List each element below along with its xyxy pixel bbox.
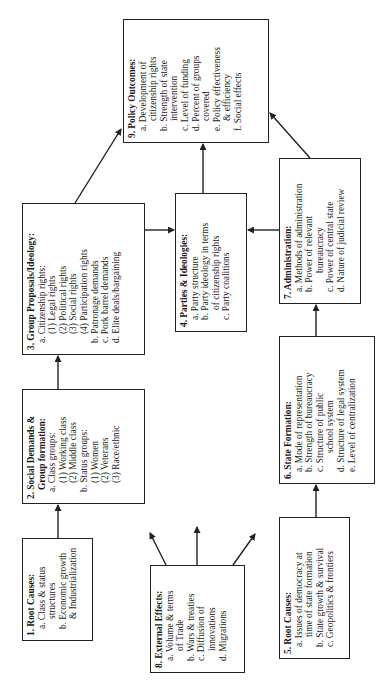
box-item: intervention bbox=[169, 24, 180, 138]
box-item: d. Elite deals/bargaining bbox=[111, 208, 122, 350]
box-item: (2) Veterans bbox=[100, 394, 111, 499]
box-item: (3) Race/ethnic bbox=[111, 394, 122, 499]
box-item: a. Party structure bbox=[190, 198, 201, 327]
box-item: (2) Political rights bbox=[58, 208, 69, 350]
box-title: 2. Social Demands & bbox=[26, 394, 37, 499]
box-item: d. Structure of legal system bbox=[336, 341, 347, 479]
box-item: b. Strength of bureaucracy bbox=[304, 341, 315, 479]
box-title: 3. Group Proposals/Ideology: bbox=[26, 208, 37, 350]
box-item: f. Social effects bbox=[233, 24, 244, 138]
box-item: c. Level of funding bbox=[180, 24, 191, 138]
box-item: covered bbox=[201, 24, 212, 138]
box-title: 6. State Formation: bbox=[283, 341, 294, 479]
box-item: of citizenship rights bbox=[211, 198, 222, 327]
box-item: time of state formation bbox=[304, 522, 315, 654]
box-item: b. Wars & treaties bbox=[186, 570, 197, 668]
box-item: c. Party coalitions bbox=[221, 198, 232, 327]
arrow-7-to-9 bbox=[270, 113, 310, 158]
box-item: & Industrialization bbox=[68, 543, 79, 636]
causal-model-diagram: 1. Root Causes: a. Class & status struct… bbox=[0, 0, 388, 698]
box-item: e. Policy effectiveness bbox=[212, 24, 223, 138]
box-parties-ideologies: 4. Parties & Ideologies: a. Party struct… bbox=[175, 193, 247, 332]
box-item: a. Class & status bbox=[37, 543, 48, 636]
box-item: (1) Legal rights bbox=[47, 208, 58, 350]
box-administration: 7. Administration: a. Methods of adminis… bbox=[279, 158, 361, 304]
box-title: 5. Root Causes: bbox=[283, 522, 294, 654]
box-item: (3) Social rights bbox=[68, 208, 79, 350]
box-item: a. Volume & terms bbox=[165, 570, 176, 668]
arrow-3-to-9 bbox=[75, 129, 121, 203]
box-item: b. Economic growth bbox=[58, 543, 69, 636]
box-external-effects: 8. External Effects: a. Volume & terms o… bbox=[150, 565, 245, 673]
box-item: c. Pork barrel demands bbox=[100, 208, 111, 350]
arrow-8-out-c bbox=[233, 534, 255, 565]
box-item: a. Citizenship rights: bbox=[37, 208, 48, 350]
box-item: c. Diffusion of bbox=[196, 570, 207, 668]
box-item: (2) Middle class bbox=[68, 394, 79, 499]
box-state-formation: 6. State Formation: a. Mode of represent… bbox=[279, 336, 375, 484]
box-title: 1. Root Causes: bbox=[26, 543, 37, 636]
box-item: of Trade bbox=[175, 570, 186, 668]
box-item: (4) Participation rights bbox=[79, 208, 90, 350]
box-item: a. Methods of administration bbox=[294, 163, 305, 299]
box-title-cont: Group formation: bbox=[37, 394, 48, 499]
box-group-proposals: 3. Group Proposals/Ideology: a. Citizens… bbox=[22, 203, 145, 355]
box-item: school system bbox=[325, 341, 336, 479]
box-item: a. Class groups: bbox=[47, 394, 58, 499]
box-item: (1) Working class bbox=[58, 394, 69, 499]
box-item: c. Power of central state bbox=[325, 163, 336, 299]
box-title: 9. Policy Outcomes: bbox=[127, 24, 138, 138]
box-social-demands: 2. Social Demands & Group formation: a. … bbox=[22, 389, 145, 504]
box-item: e. Level of centralization bbox=[347, 341, 358, 479]
box-item: innovations bbox=[207, 570, 218, 668]
box-item: b. Power of relevant bbox=[304, 163, 315, 299]
box-item: d. Percent of groups bbox=[191, 24, 202, 138]
box-item: b. Strength of state bbox=[159, 24, 170, 138]
box-item: b. Party ideology in terms bbox=[200, 198, 211, 327]
box-policy-outcomes: 9. Policy Outcomes: a. Development of ci… bbox=[123, 19, 269, 143]
box-item: c. Structure of public bbox=[315, 341, 326, 479]
box-root-causes-1: 1. Root Causes: a. Class & status struct… bbox=[22, 538, 93, 641]
box-item: d. Migrations bbox=[218, 570, 229, 668]
box-item: b. Status groups: bbox=[79, 394, 90, 499]
box-item: d. Nature of judicial review bbox=[336, 163, 347, 299]
box-root-causes-5: 5. Root Causes: a. Issues of democracy a… bbox=[279, 517, 350, 659]
box-item: a. Mode of representation bbox=[294, 341, 305, 479]
arrow-8-out-a bbox=[150, 533, 166, 565]
box-title: 4. Parties & Ideologies: bbox=[179, 198, 190, 327]
box-item: citizenship rights bbox=[148, 24, 159, 138]
box-item: a. Development of bbox=[138, 24, 149, 138]
box-title: 7. Administration: bbox=[283, 163, 294, 299]
box-item: b. State growth & survival bbox=[315, 522, 326, 654]
box-item: & efficiency bbox=[222, 24, 233, 138]
box-item: c. Geopolitics & frontiers bbox=[325, 522, 336, 654]
box-title: 8. External Effects: bbox=[154, 570, 165, 668]
box-item: structures bbox=[47, 543, 58, 636]
box-item: b. Patronage demands bbox=[90, 208, 101, 350]
box-item: bureaucracy bbox=[315, 163, 326, 299]
box-item: a. Issues of democracy at bbox=[294, 522, 305, 654]
box-item: (1) Women bbox=[90, 394, 101, 499]
